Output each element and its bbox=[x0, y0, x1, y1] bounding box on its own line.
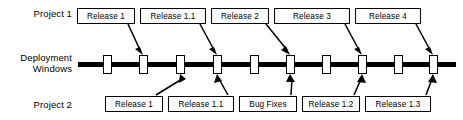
row-label-project-2: Project 2 bbox=[0, 99, 72, 110]
deployment-window-marker[interactable] bbox=[176, 55, 185, 74]
arrow-project1-release-1 bbox=[128, 24, 143, 55]
project1-release-box[interactable]: Release 1 bbox=[77, 8, 135, 24]
row-label-project-1: Project 1 bbox=[0, 8, 72, 19]
project2-release-box[interactable]: Release 1 bbox=[105, 96, 163, 112]
deployment-window-marker[interactable] bbox=[250, 55, 259, 74]
deployment-windows-diagram: Project 1 Deployment Windows Project 2 bbox=[0, 0, 463, 120]
row-label-deployment-windows: Deployment Windows bbox=[0, 52, 72, 74]
arrow-project2-release-1 bbox=[156, 74, 186, 95]
arrow-project2-bug-fixes bbox=[286, 74, 295, 95]
deployment-window-marker[interactable] bbox=[103, 55, 112, 74]
arrow-project2-release-1-1 bbox=[214, 74, 228, 95]
deployment-window-marker[interactable] bbox=[429, 55, 438, 74]
project2-release-box[interactable]: Release 1.3 bbox=[365, 96, 431, 112]
arrow-project1-release-4 bbox=[416, 24, 433, 55]
arrow-project2-release-1-3 bbox=[426, 74, 437, 95]
arrow-project1-release-2 bbox=[266, 24, 290, 55]
arrow-project1-release-1-1 bbox=[200, 24, 217, 55]
project1-release-box[interactable]: Release 3 bbox=[274, 8, 350, 24]
project2-release-box[interactable]: Release 1.1 bbox=[168, 96, 234, 112]
deployment-window-marker[interactable] bbox=[139, 55, 148, 74]
deployment-window-marker[interactable] bbox=[394, 55, 403, 74]
arrow-project2-release-1-2 bbox=[354, 74, 366, 95]
deployment-window-marker[interactable] bbox=[358, 55, 367, 74]
deployment-window-marker[interactable] bbox=[213, 55, 222, 74]
project1-release-box[interactable]: Release 4 bbox=[355, 8, 421, 24]
deployment-window-marker[interactable] bbox=[286, 55, 295, 74]
project1-release-box[interactable]: Release 1.1 bbox=[140, 8, 206, 24]
project1-release-box[interactable]: Release 2 bbox=[211, 8, 269, 24]
project2-release-box[interactable]: Release 1.2 bbox=[302, 96, 360, 112]
arrow-project1-release-3 bbox=[345, 24, 362, 55]
deployment-window-marker[interactable] bbox=[322, 55, 331, 74]
project2-release-box[interactable]: Bug Fixes bbox=[239, 96, 297, 112]
